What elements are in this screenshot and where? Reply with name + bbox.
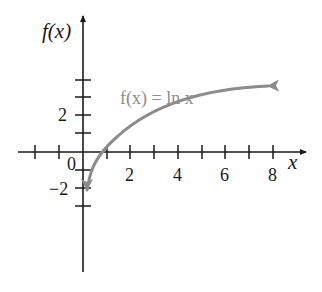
x-tick-label-0: 0 <box>67 154 76 174</box>
ln-graph: f(x) x f(x) = ln x 0 2 4 6 8 2 −2 <box>0 0 322 292</box>
x-axis-label: x <box>287 150 298 174</box>
function-label: f(x) = ln x <box>120 88 194 109</box>
x-tick-label-8: 8 <box>268 165 277 185</box>
x-tick-label-2: 2 <box>125 165 134 185</box>
y-tick-label-2: 2 <box>58 105 67 125</box>
x-tick-label-6: 6 <box>220 165 229 185</box>
y-tick-label-neg2: −2 <box>49 179 68 199</box>
y-axis-label: f(x) <box>42 19 71 43</box>
x-tick-label-4: 4 <box>173 165 182 185</box>
